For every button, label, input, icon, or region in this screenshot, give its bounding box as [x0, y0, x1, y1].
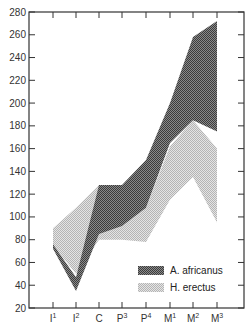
y-tick-label: 220: [9, 75, 26, 86]
y-tick-label: 40: [15, 280, 27, 291]
y-tick-label: 240: [9, 52, 26, 63]
y-tick-label: 160: [9, 143, 26, 154]
y-tick-label: 200: [9, 98, 26, 109]
y-tick-label: 60: [15, 257, 27, 268]
legend-label: H. erectus: [170, 282, 216, 293]
x-tick-label: P4: [141, 312, 152, 324]
x-tick-label: I1: [50, 312, 57, 324]
legend: A. africanusH. erectus: [138, 265, 223, 293]
y-tick-label: 180: [9, 120, 26, 131]
legend-swatch: [138, 266, 164, 275]
y-tick-label: 80: [15, 234, 27, 245]
y-tick-label: 120: [9, 189, 26, 200]
y-tick-label: 140: [9, 166, 26, 177]
x-tick-label: P3: [117, 312, 128, 324]
legend-swatch: [138, 283, 164, 292]
y-tick-label: 20: [15, 303, 27, 314]
legend-label: A. africanus: [170, 265, 223, 276]
x-tick-label: M2: [187, 312, 199, 324]
y-tick-label: 100: [9, 211, 26, 222]
y-tick-label: 280: [9, 7, 26, 18]
chart: 20406080100120140160180200220240260280I1…: [0, 0, 252, 328]
x-tick-label: C: [95, 313, 102, 324]
x-tick-label: M3: [211, 312, 223, 324]
plot-area: [53, 21, 217, 291]
x-tick-label: I2: [73, 312, 80, 324]
y-tick-label: 260: [9, 29, 26, 40]
x-tick-label: M1: [164, 312, 176, 324]
